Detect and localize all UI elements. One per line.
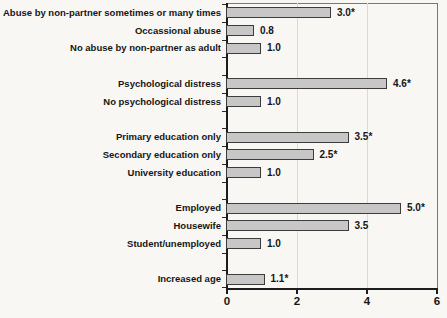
bar [226,25,254,36]
value-label: 1.0 [267,96,281,108]
category-axis-tick [222,164,226,165]
value-label: 1.1* [271,273,289,285]
bar [226,167,261,178]
category-axis-tick [222,182,226,183]
x-tick-label: 0 [217,294,237,308]
category-label: University education [0,166,221,180]
bar [226,132,349,143]
category-label: Increased age [0,272,221,286]
category-axis-tick [222,4,226,5]
value-axis [226,288,438,290]
category-axis-tick [222,146,226,147]
bar [226,274,265,285]
bar-chart-figure: Abuse by non-partner sometimes or many t… [0,0,447,318]
category-label: Abuse by non-partner sometimes or many t… [0,6,221,20]
category-label: No abuse by non-partner as adult [0,41,221,55]
category-axis-tick [222,217,226,218]
value-label: 2.5* [320,149,338,161]
category-label: Student/unemployed [0,237,221,251]
bar [226,78,387,89]
value-label: 3.0* [337,7,355,19]
value-label: 3.5* [355,131,373,143]
category-axis-tick [222,199,226,200]
bar [226,220,349,231]
category-axis-tick [222,22,226,23]
bar [226,96,261,107]
category-label: No psychological distress [0,95,221,109]
category-axis-tick [222,111,226,112]
gridline-x2 [297,3,298,288]
category-label: Employed [0,201,221,215]
gridline-x4 [367,3,368,288]
value-label: 1.0 [267,42,281,54]
x-tick-label: 6 [427,294,447,308]
category-axis-tick [222,57,226,58]
value-label: 0.8 [260,25,274,37]
category-label: Housewife [0,219,221,233]
category-axis-tick [222,270,226,271]
category-label: Occassional abuse [0,24,221,38]
bar [226,7,331,18]
value-label: 5.0* [407,202,425,214]
category-axis-tick [222,128,226,129]
bar [226,238,261,249]
category-axis-tick [222,40,226,41]
x-tick-label: 2 [287,294,307,308]
category-label: Psychological distress [0,77,221,91]
value-label: 3.5 [355,220,369,232]
plot-border-top [227,3,437,4]
category-axis-tick [222,75,226,76]
x-tick-label: 4 [357,294,377,308]
bar [226,149,314,160]
value-label: 4.6* [393,78,411,90]
category-axis-tick [222,235,226,236]
value-label: 1.0 [267,238,281,250]
bar [226,203,401,214]
category-axis-tick [222,253,226,254]
value-label: 1.0 [267,167,281,179]
plot-border-right [437,3,438,288]
category-label: Primary education only [0,130,221,144]
bar [226,43,261,54]
category-axis-tick [222,93,226,94]
category-label: Secondary education only [0,148,221,162]
